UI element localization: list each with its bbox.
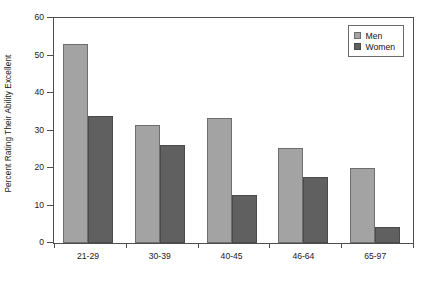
bar-group [269,18,341,243]
legend-label-women: Women [366,42,395,52]
plot-area: 0102030405060 21-2930-3940-4546-6465-97 … [53,17,414,244]
x-axis-tick [269,243,270,248]
bar-group [126,18,198,243]
y-axis-tick-label: 40 [34,87,44,97]
y-axis-title-text: Percent Rating Their Ability Excellent [4,55,13,193]
y-axis-tick-label: 50 [34,50,44,60]
bar-chart-figure: Percent Rating Their Ability Excellent 0… [0,0,428,281]
y-axis-tick: 10 [47,205,54,206]
y-axis-tick: 50 [47,55,54,56]
x-axis-tick [54,243,55,248]
x-axis-label-30-39: 30-39 [149,251,171,261]
x-axis-tick [413,243,414,248]
legend-label-men: Men [366,31,383,41]
x-axis-tick [126,243,127,248]
y-axis-tick: 20 [47,167,54,168]
bar-women-40-45 [232,195,257,243]
y-axis-title: Percent Rating Their Ability Excellent [0,0,17,247]
x-axis-label-46-64: 46-64 [292,251,314,261]
bar-men-65-97 [350,168,375,243]
x-axis-tick [198,243,199,248]
y-axis-tick-label: 60 [34,12,44,22]
x-axis-tick [341,243,342,248]
bar-women-21-29 [88,116,113,244]
bar-men-30-39 [135,125,160,243]
bar-women-46-64 [303,177,328,243]
legend-swatch-men-icon [354,32,361,39]
bar-women-30-39 [160,145,185,243]
x-axis-label-65-97: 65-97 [364,251,386,261]
bar-group [54,18,126,243]
y-axis-tick: 40 [47,92,54,93]
x-axis-label-40-45: 40-45 [221,251,243,261]
y-axis-tick-label: 0 [39,237,44,247]
bar-group [198,18,270,243]
bar-women-65-97 [375,227,400,243]
y-axis-tick: 30 [47,130,54,131]
y-axis-tick: 0 [47,242,54,243]
y-axis-tick-label: 30 [34,125,44,135]
x-axis-label-21-29: 21-29 [77,251,99,261]
legend-swatch-women-icon [354,43,361,50]
legend-item-women: Women [354,41,395,52]
y-axis-tick: 60 [47,17,54,18]
y-axis-tick-label: 20 [34,162,44,172]
legend-item-men: Men [354,30,395,41]
bar-men-46-64 [278,148,303,243]
bar-men-21-29 [63,44,88,243]
y-axis-tick-label: 10 [34,200,44,210]
legend: Men Women [348,25,404,57]
bar-men-40-45 [207,118,232,243]
